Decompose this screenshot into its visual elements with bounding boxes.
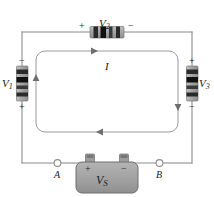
- v3-label-text: V: [199, 77, 206, 89]
- component-v3-body: [187, 66, 199, 101]
- vs-label-subscript: S: [103, 178, 108, 188]
- v2-label-subscript: 2: [106, 22, 110, 31]
- circuit-diagram: + V2 − − V1 + + V3 − I A B + − VS: [0, 0, 214, 197]
- v1-label-text: V: [2, 77, 9, 89]
- v1-band-3: [17, 86, 29, 90]
- v3-plus-sign: +: [189, 56, 195, 66]
- battery-terminal-negative-cap: [121, 155, 128, 158]
- v3-band-2: [187, 77, 199, 83]
- v3-minus-sign: −: [189, 102, 195, 112]
- battery-minus-sign: −: [121, 164, 127, 174]
- v2-plus-sign: +: [79, 21, 85, 31]
- current-arrow-right: [175, 104, 182, 111]
- voltage-source-label: VS: [96, 174, 108, 188]
- current-arrow-left: [33, 74, 40, 81]
- v3-band-3: [187, 86, 199, 90]
- outer-loop-wires: [22, 32, 192, 163]
- component-v1-body: [17, 66, 29, 101]
- v3-label-subscript: 3: [206, 82, 210, 91]
- v3-band-1: [187, 70, 199, 75]
- node-label-b: B: [156, 170, 162, 180]
- v2-label: V2: [99, 18, 110, 31]
- v3-band-4: [187, 93, 199, 97]
- node-terminal-b: [156, 160, 163, 167]
- node-label-a: A: [54, 170, 60, 180]
- current-label: I: [105, 61, 109, 72]
- v2-band-1: [94, 27, 99, 39]
- node-terminal-a: [54, 160, 61, 167]
- battery-plus-sign: +: [85, 164, 91, 174]
- v1-band-1: [17, 70, 29, 75]
- v1-minus-sign: −: [19, 56, 25, 66]
- v2-label-text: V: [99, 17, 106, 29]
- v2-minus-sign: −: [128, 21, 134, 31]
- v3-label: V3: [199, 78, 210, 91]
- v2-band-4: [116, 27, 120, 39]
- battery-terminal-positive-cap: [87, 155, 94, 158]
- current-arrow-top: [91, 48, 98, 55]
- v1-band-2: [17, 77, 29, 83]
- v1-label-subscript: 1: [9, 82, 13, 91]
- current-arrow-bottom: [96, 129, 103, 136]
- v1-plus-sign: +: [19, 102, 25, 112]
- v1-label: V1: [2, 78, 13, 91]
- v1-band-4: [17, 93, 29, 97]
